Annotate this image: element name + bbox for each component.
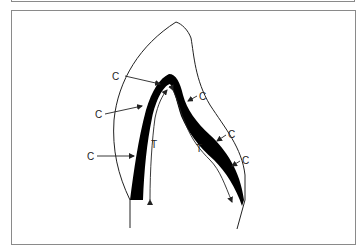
compression-label: C: [112, 71, 119, 82]
compression-arrow: [188, 96, 197, 101]
compression-label: C: [95, 109, 102, 120]
dark-band: [130, 74, 244, 206]
compression-arrow: [232, 161, 240, 166]
compression-arrow: [125, 76, 160, 84]
compression-arrow: [217, 135, 226, 141]
tension-label: T: [151, 139, 157, 150]
compression-arrow: [105, 106, 142, 114]
compression-label: C: [242, 155, 249, 166]
compression-label: C: [228, 129, 235, 140]
compression-label: C: [87, 151, 94, 162]
compression-label: C: [199, 91, 206, 102]
tooth-diagram: C C C C C C T T: [0, 0, 363, 251]
tension-label: T: [196, 143, 202, 154]
